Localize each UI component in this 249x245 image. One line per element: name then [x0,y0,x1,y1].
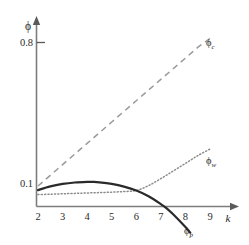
series-label-phi-w: ϕw [206,155,217,169]
series-line-phi-w [38,149,210,195]
y-axis-arrowhead [33,16,40,25]
x-tick-label-6: 6 [134,211,139,222]
x-tick-label-5: 5 [109,211,114,222]
series-label-phi-p: ϕp [184,225,194,239]
x-tick-label-8: 8 [183,211,188,222]
y-axis-title: ϕ [25,20,31,33]
x-tick-label-7: 7 [158,211,163,222]
series-label-phi-p-sub: p [189,231,194,239]
x-tick-label-3: 3 [60,211,65,222]
y-tick-label-high: 0.8 [20,37,33,48]
series-label-phi-c: ϕc [206,37,216,51]
x-tick-label-2: 2 [35,211,40,222]
x-axis-title: k [226,212,232,224]
chart-figure: ϕ k 0.8 0.1 2 3 4 5 6 7 8 9 ϕc ϕw ϕp [0,0,249,245]
series-label-phi-w-sub: w [212,161,217,169]
x-axis-arrowhead [230,203,239,210]
y-tick-label-low: 0.1 [20,178,33,189]
x-tick-label-9: 9 [207,211,212,222]
chart-plot-area: ϕ k 0.8 0.1 2 3 4 5 6 7 8 9 ϕc ϕw ϕp [0,0,249,245]
x-tick-label-4: 4 [84,211,90,222]
series-label-phi-c-sub: c [212,43,216,51]
